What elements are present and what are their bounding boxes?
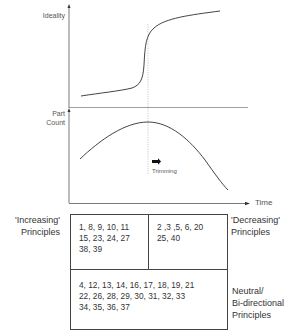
neutral-label-line1: Neutral/ [232,285,284,297]
decreasing-label-line2: Principles [231,226,280,238]
increasing-line-1: 1, 8, 9, 10, 11 [79,222,130,233]
part-count-label-line1: Part [20,109,65,118]
increasing-label-line1: 'Increasing' [2,214,60,226]
increasing-line-3: 38, 39 [79,244,130,255]
decreasing-label-line1: 'Decreasing' [231,214,280,226]
trimming-label: Trimming [152,168,177,174]
part-count-curve [80,122,228,190]
neutral-label-line3: Principles [232,309,284,321]
neutral-line-2: 22, 26, 28, 29, 30, 31, 32, 33 [79,291,194,302]
increasing-principles-cell: 1, 8, 9, 10, 11 15, 23, 24, 27 38, 39 [79,222,130,255]
time-label: Time [255,198,272,207]
time-axis-arrow-icon [245,202,250,206]
matrix-vertical-divider [148,215,149,269]
decreasing-line-1: 2 ,3 ,5, 6, 20 [157,222,203,233]
increasing-line-2: 15, 23, 24, 27 [79,233,130,244]
decreasing-line-2: 25, 40 [157,233,203,244]
neutral-line-3: 34, 35, 36, 37 [79,302,194,313]
part-count-label-line2: Count [20,118,65,127]
neutral-line-1: 4, 12, 13, 14, 16, 17, 18, 19, 21 [79,280,194,291]
decreasing-principles-label: 'Decreasing' Principles [231,214,280,238]
ideality-axis-arrow-icon [68,4,71,8]
decreasing-principles-cell: 2 ,3 ,5, 6, 20 25, 40 [157,222,203,244]
trimming-arrow-head-icon [158,158,161,164]
matrix-horizontal-divider [71,269,227,270]
neutral-label-line2: Bi-directional [232,297,284,309]
increasing-principles-label: 'Increasing' Principles [2,214,60,238]
neutral-principles-label: Neutral/ Bi-directional Principles [232,285,284,321]
part-count-axis-arrow-icon [68,108,71,112]
increasing-label-line2: Principles [2,226,60,238]
ideality-curve [81,11,220,96]
ideality-label: Ideality [20,11,65,20]
trimming-arrow-icon [152,160,158,163]
principles-matrix: 1, 8, 9, 10, 11 15, 23, 24, 27 38, 39 2 … [70,214,228,330]
neutral-principles-cell: 4, 12, 13, 14, 16, 17, 18, 19, 21 22, 26… [79,280,194,313]
